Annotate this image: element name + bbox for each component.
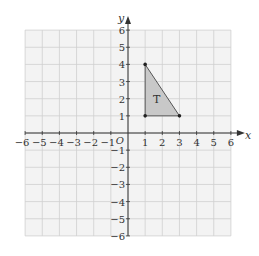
- x-tick-label: −6: [15, 137, 30, 148]
- y-tick-label: 6: [119, 25, 125, 36]
- x-tick-label: 4: [193, 137, 199, 148]
- y-axis-label: y: [117, 12, 125, 25]
- y-tick-label: −6: [110, 231, 125, 242]
- y-tick-label: 4: [119, 59, 125, 70]
- x-tick-label: −2: [83, 137, 98, 148]
- x-tick-label: 5: [211, 137, 217, 148]
- y-tick-label: −3: [110, 179, 125, 190]
- y-tick-label: −1: [110, 145, 125, 156]
- x-axis-arrow-icon: [237, 130, 245, 136]
- x-tick-label: 6: [228, 137, 234, 148]
- y-tick-label: 2: [119, 94, 125, 105]
- x-tick-label: −4: [49, 137, 64, 148]
- y-tick-label: 5: [119, 42, 125, 53]
- x-tick-label: 2: [159, 137, 165, 148]
- x-tick-label: 1: [142, 137, 148, 148]
- vertex-point: [143, 114, 147, 118]
- vertex-point: [178, 114, 182, 118]
- shape-label: T: [153, 93, 161, 106]
- y-tick-label: 1: [119, 111, 125, 122]
- coordinate-grid-diagram: TxyO−6−5−4−3−2−1123456654321−1−2−3−4−5−6: [0, 0, 259, 256]
- x-tick-label: −3: [66, 137, 81, 148]
- x-axis-label: x: [245, 129, 252, 142]
- y-tick-label: −5: [110, 214, 125, 225]
- vertex-point: [143, 63, 147, 67]
- y-tick-label: 3: [119, 77, 125, 88]
- coordinate-plane: TxyO−6−5−4−3−2−1123456654321−1−2−3−4−5−6: [0, 0, 259, 256]
- y-tick-label: −2: [110, 162, 125, 173]
- y-tick-label: −4: [110, 197, 125, 208]
- y-axis-arrow-icon: [125, 16, 131, 24]
- x-tick-label: 3: [176, 137, 182, 148]
- x-tick-label: −5: [32, 137, 47, 148]
